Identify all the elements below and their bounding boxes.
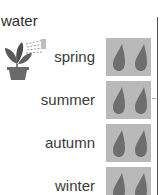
water-drops-box: [106, 38, 151, 76]
water-drops-box: [106, 124, 151, 162]
water-drop-icon: [106, 81, 151, 119]
vertical-divider: [157, 17, 158, 195]
season-label: winter: [55, 177, 95, 195]
row-autumn: autumn: [0, 124, 155, 164]
water-drops-box: [106, 167, 151, 195]
season-label: spring: [54, 48, 95, 66]
water-drop-icon: [106, 38, 151, 76]
season-label: autumn: [45, 134, 95, 152]
water-drop-icon: [106, 124, 151, 162]
water-drops-box: [106, 81, 151, 119]
water-drop-icon: [106, 167, 151, 195]
row-spring: spring: [0, 38, 155, 78]
season-label: summer: [41, 91, 95, 109]
title: water: [1, 13, 38, 29]
row-summer: summer: [0, 81, 155, 121]
row-winter: winter: [0, 167, 155, 195]
